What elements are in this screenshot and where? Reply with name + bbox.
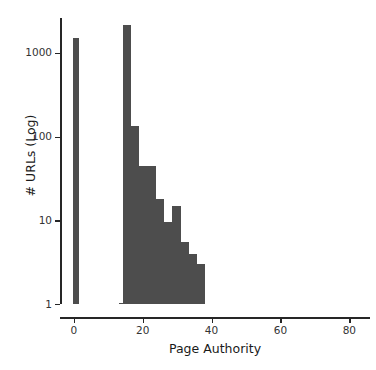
- x-tick-mark: [74, 318, 75, 323]
- x-tick-mark: [212, 318, 213, 323]
- x-tick-label: 20: [123, 325, 163, 336]
- histogram-figure: 1101001000 020406080 Page Authority # UR…: [0, 0, 376, 370]
- histogram-bar: [147, 166, 155, 304]
- x-tick-label: 60: [260, 325, 300, 336]
- histogram-bar: [73, 38, 79, 304]
- histogram-bar: [197, 264, 205, 304]
- x-axis-spine: [60, 317, 370, 319]
- y-tick-mark: [55, 220, 60, 221]
- histogram-bar: [156, 199, 164, 304]
- y-tick-mark: [55, 304, 60, 305]
- histogram-bar: [139, 166, 147, 304]
- y-tick-label: 1000: [25, 47, 52, 58]
- x-tick-mark: [349, 318, 350, 323]
- y-tick-label: 1: [45, 299, 52, 310]
- histogram-bar: [181, 242, 189, 304]
- x-tick-mark: [143, 318, 144, 323]
- x-axis-title: Page Authority: [60, 341, 370, 356]
- x-tick-label: 40: [192, 325, 232, 336]
- histogram-bar: [164, 222, 172, 304]
- y-tick-mark: [55, 53, 60, 54]
- histogram-bar: [131, 126, 139, 304]
- x-tick-label: 0: [54, 325, 94, 336]
- y-axis-title: # URLs (Log): [23, 66, 38, 246]
- y-tick-mark: [55, 137, 60, 138]
- x-tick-mark: [280, 318, 281, 323]
- x-tick-label: 80: [329, 325, 369, 336]
- histogram-bar: [123, 25, 131, 304]
- histogram-bar: [172, 206, 180, 304]
- plot-area: [60, 18, 370, 304]
- y-tick-label: 10: [39, 215, 52, 226]
- y-axis-spine: [60, 18, 62, 304]
- histogram-bar: [189, 254, 197, 304]
